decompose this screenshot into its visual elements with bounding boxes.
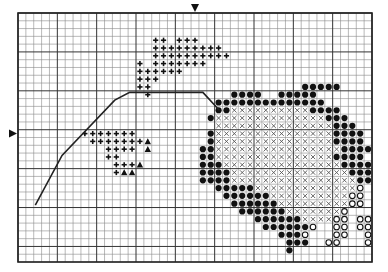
stitch-cross xyxy=(232,178,236,182)
stitch-open-circle xyxy=(334,240,340,246)
stitch-cross xyxy=(334,147,338,151)
stitch-filled-circle xyxy=(239,208,245,214)
stitch-cross xyxy=(287,139,291,143)
stitch-filled-circle xyxy=(216,185,222,191)
stitch-open-circle xyxy=(365,216,371,222)
stitch-cross xyxy=(248,116,252,120)
stitch-cross xyxy=(256,155,260,159)
stitch-filled-circle xyxy=(341,138,347,144)
stitch-cross xyxy=(303,131,307,135)
stitch-plus xyxy=(185,45,190,50)
stitch-filled-circle xyxy=(294,224,300,230)
stitch-filled-circle xyxy=(216,169,222,175)
stitch-cross xyxy=(319,124,323,128)
stitch-cross xyxy=(287,124,291,128)
stitch-filled-circle xyxy=(247,193,253,199)
stitch-cross xyxy=(279,201,283,205)
stitch-cross xyxy=(240,178,244,182)
stitch-plus xyxy=(137,69,142,74)
stitch-filled-triangle xyxy=(137,162,143,168)
stitch-plus xyxy=(169,69,174,74)
stitch-plus xyxy=(98,139,103,144)
stitch-filled-circle xyxy=(263,99,269,105)
stitch-cross xyxy=(256,147,260,151)
stitch-filled-circle xyxy=(334,84,340,90)
stitch-filled-circle xyxy=(294,99,300,105)
stitch-filled-circle xyxy=(334,107,340,113)
stitch-cross xyxy=(327,131,331,135)
stitch-filled-circle xyxy=(357,162,363,168)
stitch-cross xyxy=(264,108,268,112)
stitch-cross xyxy=(327,170,331,174)
stitch-filled-circle xyxy=(278,216,284,222)
stitch-cross xyxy=(319,147,323,151)
stitch-open-circle xyxy=(334,224,340,230)
stitch-cross xyxy=(295,209,299,213)
stitch-plus xyxy=(200,45,205,50)
stitch-cross xyxy=(287,116,291,120)
stitch-open-circle xyxy=(350,193,356,199)
stitch-filled-circle xyxy=(231,99,237,105)
stitch-plus xyxy=(185,61,190,66)
stitch-cross xyxy=(287,131,291,135)
stitch-filled-circle xyxy=(341,162,347,168)
stitch-cross xyxy=(248,170,252,174)
stitch-cross xyxy=(350,186,354,190)
stitch-filled-circle xyxy=(247,201,253,207)
stitch-filled-circle xyxy=(231,193,237,199)
stitch-filled-circle xyxy=(208,162,214,168)
stitch-cross xyxy=(256,116,260,120)
stitch-plus xyxy=(114,162,119,167)
stitch-filled-circle xyxy=(271,224,277,230)
stitch-cross xyxy=(240,108,244,112)
stitch-filled-circle xyxy=(334,154,340,160)
stitch-cross xyxy=(319,194,323,198)
stitch-plus xyxy=(177,45,182,50)
stitch-cross xyxy=(287,170,291,174)
stitch-filled-circle xyxy=(349,123,355,129)
stitch-cross xyxy=(271,186,275,190)
stitch-cross xyxy=(279,108,283,112)
stitch-cross xyxy=(295,163,299,167)
stitch-cross xyxy=(271,124,275,128)
stitch-cross xyxy=(232,139,236,143)
stitch-cross xyxy=(327,155,331,159)
stitch-open-circle xyxy=(342,209,348,215)
stitch-cross xyxy=(279,147,283,151)
stitch-cross xyxy=(342,201,346,205)
stitch-filled-circle xyxy=(349,138,355,144)
stitch-filled-circle xyxy=(200,162,206,168)
stitch-cross xyxy=(342,178,346,182)
stitch-cross xyxy=(224,131,228,135)
stitch-filled-circle xyxy=(357,138,363,144)
stitch-cross xyxy=(319,178,323,182)
stitch-cross xyxy=(287,194,291,198)
stitch-cross xyxy=(232,170,236,174)
pattern-chart xyxy=(0,0,388,272)
stitch-cross xyxy=(232,147,236,151)
stitch-filled-circle xyxy=(208,138,214,144)
stitch-filled-circle xyxy=(231,201,237,207)
stitch-cross xyxy=(311,170,315,174)
stitch-filled-circle xyxy=(341,123,347,129)
stitch-cross xyxy=(303,108,307,112)
stitch-cross xyxy=(248,163,252,167)
stitch-plus xyxy=(122,162,127,167)
stitch-filled-circle xyxy=(208,177,214,183)
stitch-plus xyxy=(153,77,158,82)
stitch-cross xyxy=(319,139,323,143)
stitch-filled-circle xyxy=(302,99,308,105)
stitch-filled-circle xyxy=(294,216,300,222)
stitch-open-circle xyxy=(342,232,348,238)
stitch-cross xyxy=(327,139,331,143)
stitch-cross xyxy=(264,186,268,190)
stitch-filled-circle xyxy=(255,193,261,199)
stitch-cross xyxy=(327,124,331,128)
stitch-cross xyxy=(224,116,228,120)
stitch-filled-circle xyxy=(208,154,214,160)
stitch-plus xyxy=(161,69,166,74)
stitch-open-circle xyxy=(357,224,363,230)
stitch-plus xyxy=(129,147,134,152)
stitch-cross xyxy=(303,186,307,190)
stitch-filled-circle xyxy=(286,224,292,230)
